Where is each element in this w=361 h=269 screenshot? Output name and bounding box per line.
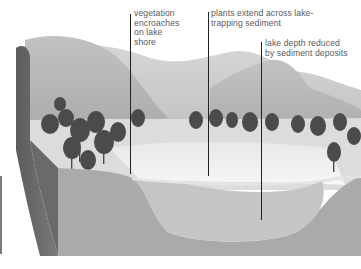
lake-surface — [110, 142, 345, 185]
left-edge-strip — [0, 176, 2, 254]
label-vegetation: vegetation encroaches on lake shore — [134, 9, 179, 47]
label-plants: plants extend across lake- trapping sedi… — [211, 9, 313, 28]
label-depth: lake depth reduced by sediment deposits — [265, 39, 348, 58]
leader-line-vegetation — [130, 14, 131, 174]
leader-line-plants — [208, 12, 209, 176]
leader-line-depth — [261, 42, 262, 220]
